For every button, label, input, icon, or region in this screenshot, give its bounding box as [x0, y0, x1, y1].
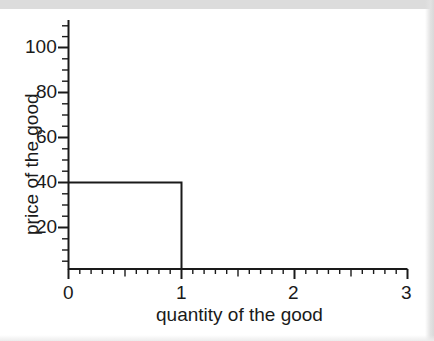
x-axis-minor-ticks [80, 269, 396, 277]
x-tick-label-1: 1 [176, 283, 187, 302]
y-axis-title: price of the good [22, 93, 41, 235]
y-axis-minor-ticks [62, 26, 68, 261]
demand-step-curve [68, 183, 182, 270]
x-axis-title: quantity of the good [156, 305, 323, 324]
chart-figure: 100 80 60 40 20 0 1 2 3 price of the goo… [0, 0, 434, 341]
y-axis-major-ticks [58, 48, 68, 228]
x-tick-label-0: 0 [63, 283, 74, 302]
x-tick-label-2: 2 [288, 283, 299, 302]
plot-area: 100 80 60 40 20 0 1 2 3 price of the goo… [0, 0, 434, 341]
x-tick-label-3: 3 [401, 283, 412, 302]
y-tick-label-100: 100 [25, 37, 57, 56]
